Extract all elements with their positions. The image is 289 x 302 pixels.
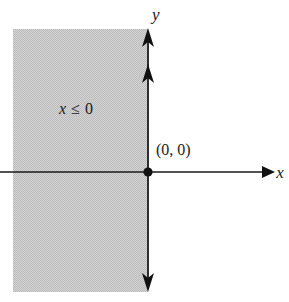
origin-coordinate-label: (0, 0) (156, 141, 191, 159)
origin-dot-marker (143, 167, 152, 176)
shaded-region-x-le-0 (13, 29, 148, 292)
region-label-relation: ≤ (71, 100, 80, 117)
y-axis-label: y (150, 5, 160, 24)
graph-canvas: y x x≤0 (0, 0) (0, 0, 289, 302)
region-label-variable: x (58, 100, 66, 117)
region-label-value: 0 (85, 100, 93, 117)
inequality-graph-figure: y x x≤0 (0, 0) (0, 0, 289, 302)
region-inequality-label: x≤0 (58, 100, 93, 117)
x-axis-label: x (275, 163, 284, 182)
